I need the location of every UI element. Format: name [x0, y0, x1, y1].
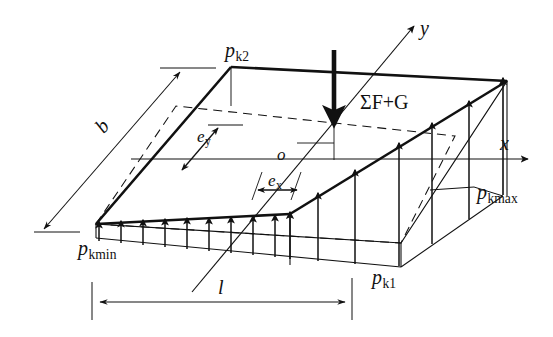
label-pk2: pk2 — [225, 40, 249, 63]
footing-top-face — [96, 67, 507, 243]
edge-kmin-to-k1 — [96, 214, 290, 224]
label-resultant-load: ΣF+G — [360, 92, 409, 112]
label-x-axis: x — [500, 133, 509, 153]
ex-extension-line-left — [252, 172, 262, 200]
figure-canvas: pk2 pkmin pkmax pk1 ΣF+G ey ex o y x b l — [0, 0, 553, 337]
label-pkmin: pkmin — [78, 238, 116, 261]
edge-k2-to-kmax — [231, 67, 507, 81]
label-pkmax: pkmax — [477, 182, 518, 205]
pressure-distribution-diagram — [0, 0, 553, 337]
base-outline-thin — [96, 81, 507, 267]
solid-edges-heavy — [96, 67, 507, 224]
label-dimension-l: l — [218, 277, 224, 297]
label-y-axis: y — [420, 18, 429, 38]
dimension-b-group — [34, 68, 216, 232]
label-eccentricity-x: ex — [268, 172, 282, 192]
base-right-edge — [401, 196, 503, 267]
axis-group — [131, 26, 528, 292]
label-eccentricity-y: ey — [197, 128, 211, 148]
eccentricity-ey-group — [182, 125, 243, 170]
top-face-outline — [96, 67, 507, 243]
label-origin: o — [277, 146, 286, 163]
label-pk1: pk1 — [372, 267, 396, 290]
pressure-arrows-right — [318, 78, 503, 266]
ex-extension-line-right — [291, 172, 301, 200]
